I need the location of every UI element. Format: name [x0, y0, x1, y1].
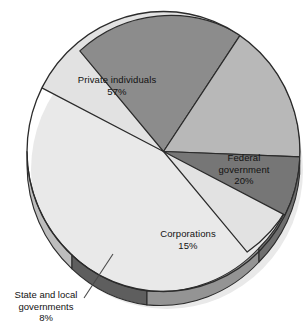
slice-label-state-local-governments-name-line2: governments	[0, 301, 92, 313]
slice-label-state-local-governments-percent: 8%	[0, 312, 92, 324]
slice-label-state-local-governments: State and local governments 8%	[0, 289, 92, 324]
slice-label-state-local-governments-name-line1: State and local	[0, 289, 92, 301]
pie-chart-canvas	[0, 0, 307, 332]
pie-chart: Private individuals 57% Federal governme…	[0, 0, 307, 332]
